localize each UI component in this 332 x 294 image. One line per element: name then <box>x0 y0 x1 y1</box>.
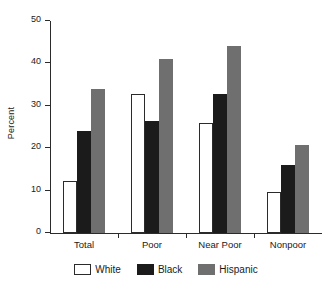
bar-white-poor <box>131 94 145 233</box>
category-label: Nonpoor <box>270 239 306 250</box>
bar-hispanic-poor <box>159 59 173 233</box>
bar-white-total <box>63 181 77 233</box>
y-tick-label: 50 <box>31 14 41 24</box>
y-tick: 20 <box>45 147 50 148</box>
bar-black-near-poor <box>213 94 227 233</box>
y-tick: 40 <box>45 62 50 63</box>
legend-swatch-white <box>74 264 91 275</box>
legend-item-hispanic: Hispanic <box>198 264 257 275</box>
y-tick-label: 10 <box>31 184 41 194</box>
category-label: Poor <box>142 239 162 250</box>
bar-black-total <box>77 131 91 233</box>
y-tick: 30 <box>45 105 50 106</box>
legend-item-white: White <box>74 264 121 275</box>
bar-hispanic-nonpoor <box>295 145 309 233</box>
bar-chart-figure: Percent 01020304050 TotalPoorNear PoorNo… <box>0 0 332 294</box>
legend-label: Black <box>158 264 182 275</box>
category-label: Near Poor <box>198 239 241 250</box>
bar-hispanic-total <box>91 89 105 233</box>
bar-white-nonpoor <box>267 192 281 233</box>
chart-legend: WhiteBlackHispanic <box>0 264 332 275</box>
y-tick-label: 20 <box>31 141 41 151</box>
legend-item-black: Black <box>137 264 182 275</box>
legend-label: Hispanic <box>219 264 257 275</box>
legend-label: White <box>95 264 121 275</box>
y-tick: 50 <box>45 20 50 21</box>
category-label: Total <box>74 239 94 250</box>
y-tick-label: 0 <box>36 226 41 236</box>
x-tick <box>186 233 187 238</box>
bar-black-poor <box>145 121 159 233</box>
bar-black-nonpoor <box>281 165 295 233</box>
y-tick: 0 <box>45 232 50 233</box>
legend-swatch-black <box>137 264 154 275</box>
y-tick-label: 30 <box>31 99 41 109</box>
x-tick <box>254 233 255 238</box>
y-tick: 10 <box>45 190 50 191</box>
legend-swatch-hispanic <box>198 264 215 275</box>
y-tick-label: 40 <box>31 56 41 66</box>
bar-white-near-poor <box>199 123 213 233</box>
y-axis-label: Percent <box>6 93 16 153</box>
x-tick <box>118 233 119 238</box>
y-axis-line <box>50 21 51 234</box>
plot-area: 01020304050 TotalPoorNear PoorNonpoor <box>50 21 322 233</box>
bar-hispanic-near-poor <box>227 46 241 233</box>
